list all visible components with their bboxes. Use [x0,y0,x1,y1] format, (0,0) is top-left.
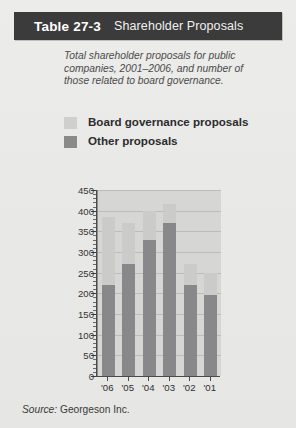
bar-segment-board-governance [204,273,217,296]
y-axis-tick-label: 300 [64,247,94,258]
x-axis-tick-label: '05 [121,382,134,393]
y-axis-tick-label: 400 [64,205,94,216]
y-axis-tick-label: 250 [64,267,94,278]
x-axis-tick [169,377,170,381]
legend-item-other-proposals: Other proposals [64,135,264,148]
y-axis-tick-label: 350 [64,226,94,237]
table-number: Table 27-3 [34,19,101,34]
bar-stack [122,223,135,376]
legend-item-board-governance: Board governance proposals [64,116,264,129]
y-axis-tick-label: 100 [64,329,94,340]
source-prefix: Source: [22,404,57,415]
x-axis-line [96,376,220,377]
bar-chart: 050100150200250300350400450 '06'05'04'03… [60,186,236,378]
y-axis-tick-label: 50 [64,350,94,361]
x-axis-tick-label: '02 [183,382,196,393]
legend-swatch-icon [64,117,77,129]
legend-swatch-icon [64,136,77,148]
y-axis-line [96,190,97,377]
legend-item-label: Board governance proposals [88,116,248,128]
bar-stack [184,264,197,376]
plot-area [97,190,221,376]
page-title: Shareholder Proposals [114,19,243,33]
bar-segment-board-governance [184,264,197,285]
y-axis-tick-label: 0 [64,371,94,382]
bar-segment-other-proposals [163,223,176,376]
bar-stack [143,211,156,376]
bar-segment-other-proposals [122,264,135,376]
x-axis-tick-label: '04 [142,382,155,393]
y-axis-tick-label: 150 [64,309,94,320]
bar-stack [204,273,217,376]
bar-stack [163,204,176,376]
bar-segment-board-governance [143,211,156,240]
x-axis-tick-label: '06 [101,382,114,393]
x-axis-tick-label: '01 [203,382,216,393]
bar-segment-other-proposals [143,240,156,376]
x-axis-tick [128,377,129,381]
bar-segment-board-governance [102,217,115,285]
x-axis-tick-label: '03 [162,382,175,393]
bar-segment-other-proposals [184,285,197,376]
source-note: Source: Georgeson Inc. [22,404,130,415]
bar-series-group [98,190,221,376]
bar-segment-other-proposals [102,285,115,376]
x-axis-tick [107,377,108,381]
source-text: Georgeson Inc. [60,404,130,415]
legend-item-label: Other proposals [88,135,178,147]
bar-segment-board-governance [163,204,176,223]
table-header-bar: Table 27-3 Shareholder Proposals [14,12,282,40]
x-axis-tick [189,377,190,381]
table-caption: Total shareholder proposals for public c… [64,50,244,88]
x-axis-tick [210,377,211,381]
y-axis-tick-label: 450 [64,185,94,196]
y-axis-tick-label: 200 [64,288,94,299]
x-axis-tick [148,377,149,381]
bar-segment-board-governance [122,223,135,264]
bar-stack [102,217,115,376]
bar-segment-other-proposals [204,295,217,376]
chart-legend: Board governance proposals Other proposa… [64,116,264,154]
